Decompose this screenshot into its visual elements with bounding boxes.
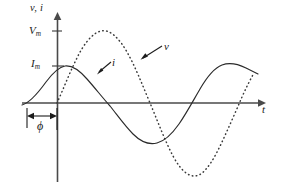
waveform-figure: v, i Vm Im i v ϕ t [0,0,281,184]
y-axis-label: v, i [30,3,43,14]
v-leader [141,46,163,60]
voltage-curve-label: v [164,41,169,52]
phase-angle-label: ϕ [37,120,43,132]
i-leader [97,62,111,74]
im-label: Im [31,58,40,71]
x-axis-label: t [262,104,265,115]
current-curve-label: i [112,57,115,68]
vm-subscript: m [36,30,41,38]
waveform-plot-svg [0,0,281,184]
im-subscript: m [35,63,40,71]
y-axis [54,12,62,182]
x-axis [22,99,266,107]
vm-label: Vm [29,25,41,38]
vm-base: V [29,24,36,36]
